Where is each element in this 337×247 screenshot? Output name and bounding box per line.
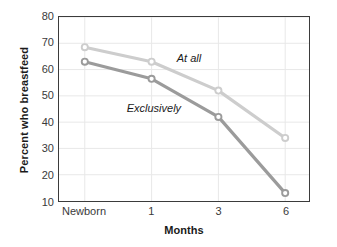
x-axis-title: Months (58, 224, 310, 236)
data-point-marker (82, 44, 88, 50)
y-tick-label: 70 (28, 37, 54, 48)
data-point-marker (82, 59, 88, 65)
data-point-marker (215, 88, 221, 94)
y-tick-label: 30 (28, 143, 54, 154)
y-tick-label: 40 (28, 117, 54, 128)
data-point-marker (149, 59, 155, 65)
x-tick-label: Newborn (62, 205, 106, 218)
y-tick-label: 10 (28, 197, 54, 208)
y-tick-label: 20 (28, 170, 54, 181)
data-point-marker (282, 135, 288, 141)
data-point-marker (215, 114, 221, 120)
series-label-at-all: At all (177, 52, 201, 64)
x-tick-label: 6 (283, 205, 289, 218)
y-tick-label: 80 (28, 11, 54, 22)
plot-svg (59, 17, 309, 201)
y-tick-label: 50 (28, 90, 54, 101)
x-axis-tick-labels: Newborn136 (58, 205, 310, 221)
line-chart: Percent who breastfeed 1020304050607080 … (0, 0, 337, 247)
plot-area: At allExclusively (58, 16, 310, 202)
data-point-marker (149, 76, 155, 82)
data-point-marker (282, 190, 288, 196)
series-label-exclusively: Exclusively (127, 102, 181, 114)
y-axis-tick-labels: 1020304050607080 (28, 0, 54, 247)
x-tick-label: 3 (216, 205, 222, 218)
series-line-exclusively (85, 62, 285, 193)
y-tick-label: 60 (28, 64, 54, 75)
x-tick-label: 1 (148, 205, 154, 218)
